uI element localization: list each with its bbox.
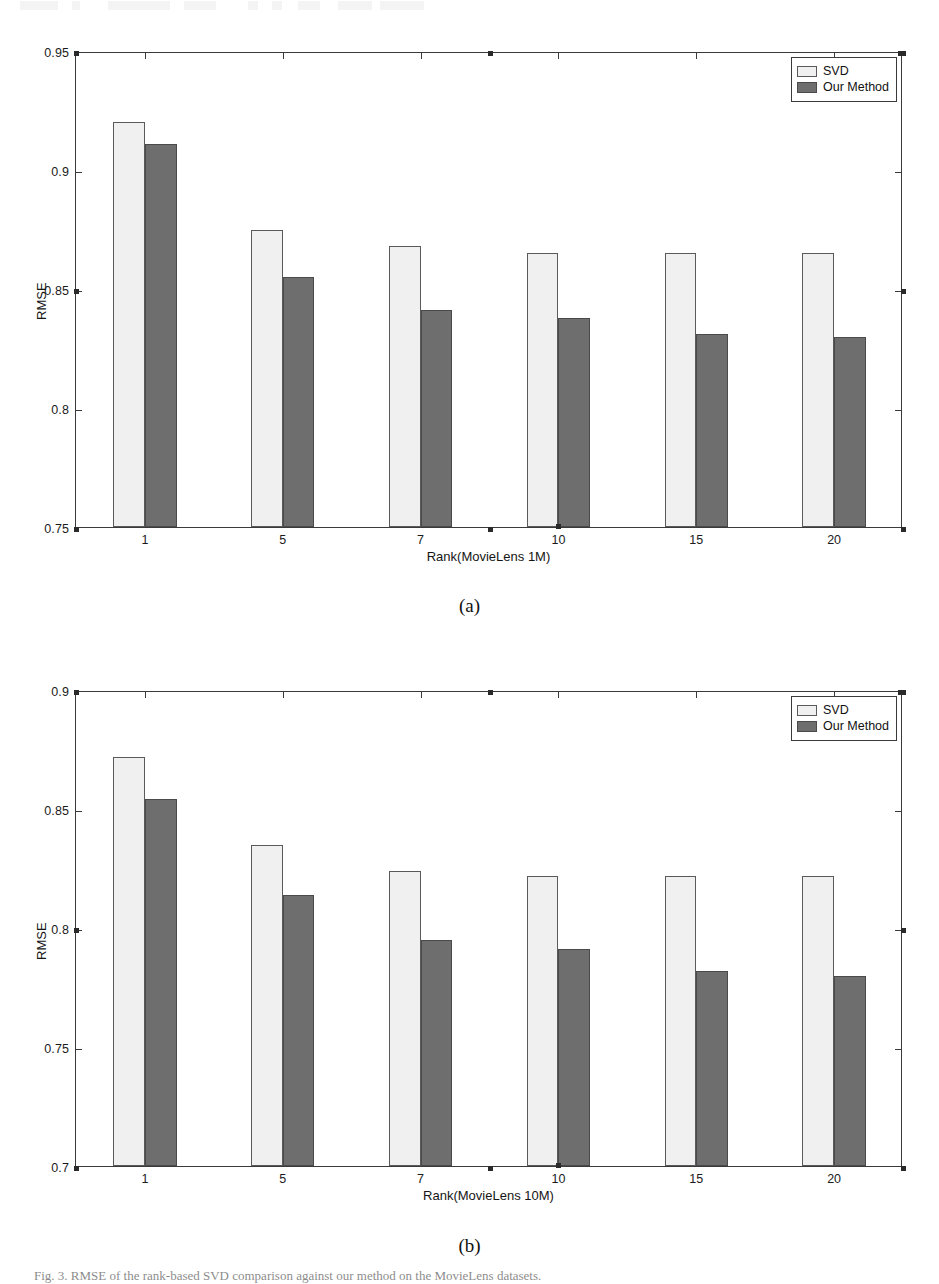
- subcaption-b: (b): [0, 1235, 939, 1257]
- chart-a-bar-svd-1: [113, 122, 145, 527]
- chart-b-bar-ours-20: [834, 976, 866, 1166]
- chart-a-xtick-label: 5: [279, 533, 286, 547]
- chart-a-ytick-mark: [76, 172, 82, 173]
- chart-a-bar-ours-15: [696, 334, 728, 527]
- legend-swatch-icon: [797, 82, 817, 93]
- chart-b-bar-svd-20: [802, 876, 834, 1166]
- chart-a-axis-handle[interactable]: [74, 527, 79, 532]
- chart-b-legend-label: Our Method: [823, 720, 889, 733]
- chart-b-axis-handle[interactable]: [901, 928, 906, 933]
- chart-b-bar-ours-1: [145, 799, 177, 1166]
- chart-b-axis-handle[interactable]: [901, 1166, 906, 1171]
- chart-b-ytick-label: 0.8: [51, 923, 69, 937]
- chart-a-bar-ours-5: [283, 277, 315, 527]
- chart-a-bar-svd-5: [251, 230, 283, 528]
- chart-a-ytick-label: 0.75: [44, 522, 69, 536]
- chart-b-bar-ours-15: [696, 971, 728, 1166]
- chart-b-legend-label: SVD: [823, 704, 849, 717]
- chart-b-xtick-label: 7: [417, 1172, 424, 1186]
- legend-swatch-icon: [797, 721, 817, 732]
- chart-b-axis-handle[interactable]: [74, 690, 79, 695]
- subcaption-a: (a): [0, 595, 939, 617]
- chart-b-legend-item-ours[interactable]: Our Method: [797, 719, 889, 734]
- chart-a-legend-label: SVD: [823, 65, 849, 78]
- chart-b-xtick-label: 10: [551, 1172, 565, 1186]
- chart-a-legend-anchor[interactable]: [898, 51, 903, 56]
- chart-a-axis-handle[interactable]: [74, 51, 79, 56]
- chart-a-ytick-label: 0.85: [44, 284, 69, 298]
- chart-b-xtick-label: 15: [689, 1172, 703, 1186]
- chart-b-ytick-label: 0.85: [44, 804, 69, 818]
- chart-a-axis-handle[interactable]: [901, 289, 906, 294]
- chart-b-bar-svd-7: [389, 871, 421, 1166]
- figure-caption: Fig. 3. RMSE of the rank-based SVD compa…: [34, 1268, 906, 1284]
- chart-a-xtick-label: 10: [551, 533, 565, 547]
- chart-a-legend-item-svd[interactable]: SVD: [797, 64, 889, 79]
- chart-a-bar-ours-1: [145, 144, 177, 527]
- chart-b-axis-handle[interactable]: [74, 1166, 79, 1171]
- chart-a-legend[interactable]: SVDOur Method: [791, 57, 897, 102]
- chart-a-bar-svd-10: [527, 253, 559, 527]
- chart-a-xtick-mark-top: [283, 53, 284, 59]
- chart-b-xaxis-title: Rank(MovieLens 10M): [423, 1188, 554, 1203]
- chart-b-legend-anchor[interactable]: [898, 690, 903, 695]
- chart-b-axis-handle[interactable]: [74, 928, 79, 933]
- chart-a-plot-area: 0.950.90.850.80.75157101520Rank(MovieLen…: [75, 52, 902, 528]
- chart-b-xtick-mark-top: [421, 692, 422, 698]
- chart-b-axis-handle[interactable]: [488, 1166, 493, 1171]
- chart-a-axis-handle[interactable]: [488, 51, 493, 56]
- chart-b-ytick-mark: [76, 811, 82, 812]
- chart-a-xtick-mark-top: [145, 53, 146, 59]
- chart-b-ytick-label: 0.75: [44, 1042, 69, 1056]
- chart-b-xtick-label: 20: [827, 1172, 841, 1186]
- chart-b-bar-svd-1: [113, 757, 145, 1166]
- chart-a-ytick-label: 0.8: [51, 403, 69, 417]
- chart-a-xtick-label: 20: [827, 533, 841, 547]
- chart-b-axis-handle[interactable]: [488, 690, 493, 695]
- chart-a: RMSE 0.950.90.850.80.75157101520Rank(Mov…: [0, 0, 939, 600]
- chart-a-legend-label: Our Method: [823, 81, 889, 94]
- chart-a-ytick-label: 0.95: [44, 46, 69, 60]
- chart-b-legend-item-svd[interactable]: SVD: [797, 703, 889, 718]
- chart-a-axis-handle-mid[interactable]: [556, 524, 561, 529]
- chart-b-ytick-label: 0.7: [51, 1161, 69, 1175]
- chart-b-ytick-mark-right: [895, 1049, 901, 1050]
- chart-b-bar-svd-10: [527, 876, 559, 1166]
- chart-b-xtick-mark-top: [696, 692, 697, 698]
- chart-a-xtick-mark-top: [558, 53, 559, 59]
- chart-a-ytick-mark-right: [895, 172, 901, 173]
- chart-b-bar-ours-5: [283, 895, 315, 1166]
- chart-b-xtick-label: 1: [141, 1172, 148, 1186]
- chart-a-axis-handle[interactable]: [901, 527, 906, 532]
- chart-a-xtick-label: 1: [141, 533, 148, 547]
- chart-a-bar-ours-20: [834, 337, 866, 527]
- chart-a-xtick-mark-top: [696, 53, 697, 59]
- chart-a-bar-ours-10: [558, 318, 590, 527]
- chart-b-axis-handle-mid[interactable]: [556, 1163, 561, 1168]
- chart-a-bar-svd-20: [802, 253, 834, 527]
- chart-a-bar-svd-7: [389, 246, 421, 527]
- chart-b-legend[interactable]: SVDOur Method: [791, 696, 897, 741]
- chart-a-legend-item-ours[interactable]: Our Method: [797, 80, 889, 95]
- chart-a-ytick-label: 0.9: [51, 165, 69, 179]
- chart-b: RMSE 0.90.850.80.750.7157101520Rank(Movi…: [0, 640, 939, 1240]
- chart-b-xtick-mark-top: [283, 692, 284, 698]
- chart-b-xtick-mark-top: [145, 692, 146, 698]
- chart-b-xtick-mark-top: [558, 692, 559, 698]
- chart-a-ytick-mark: [76, 410, 82, 411]
- chart-a-xtick-mark-top: [421, 53, 422, 59]
- chart-b-plot-area: 0.90.850.80.750.7157101520Rank(MovieLens…: [75, 691, 902, 1167]
- chart-a-axis-handle[interactable]: [488, 527, 493, 532]
- chart-b-bar-ours-7: [421, 940, 453, 1166]
- chart-a-xtick-label: 7: [417, 533, 424, 547]
- chart-a-bar-svd-15: [665, 253, 697, 527]
- chart-b-ytick-mark: [76, 1049, 82, 1050]
- chart-a-xtick-label: 15: [689, 533, 703, 547]
- legend-swatch-icon: [797, 705, 817, 716]
- chart-b-ytick-label: 0.9: [51, 685, 69, 699]
- legend-swatch-icon: [797, 66, 817, 77]
- chart-b-ytick-mark-right: [895, 811, 901, 812]
- chart-b-bar-svd-5: [251, 845, 283, 1166]
- chart-a-bar-ours-7: [421, 310, 453, 527]
- chart-a-axis-handle[interactable]: [74, 289, 79, 294]
